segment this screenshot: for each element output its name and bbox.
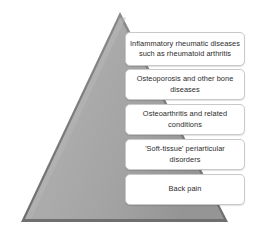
pyramid-tier-5: Back pain xyxy=(125,174,245,205)
pyramid-tier-1-label: Inflammatory rheumatic diseases such as … xyxy=(126,39,244,60)
pyramid-tier-3: Osteoarthritis and related conditions xyxy=(125,104,245,135)
pyramid-tier-4: 'Soft-tissue' periarticular disorders xyxy=(125,139,245,170)
pyramid-tier-2: Osteoporosis and other bone diseases xyxy=(125,69,245,100)
pyramid-tier-2-label: Osteoporosis and other bone diseases xyxy=(126,74,244,95)
pyramid-tier-5-label: Back pain xyxy=(165,184,206,195)
pyramid-tier-list: Inflammatory rheumatic diseases such as … xyxy=(125,0,247,238)
pyramid-tier-3-label: Osteoarthritis and related conditions xyxy=(126,109,244,130)
pyramid-diagram: Inflammatory rheumatic diseases such as … xyxy=(0,0,268,238)
pyramid-tier-4-label: 'Soft-tissue' periarticular disorders xyxy=(126,144,244,165)
pyramid-tier-1: Inflammatory rheumatic diseases such as … xyxy=(125,32,245,66)
